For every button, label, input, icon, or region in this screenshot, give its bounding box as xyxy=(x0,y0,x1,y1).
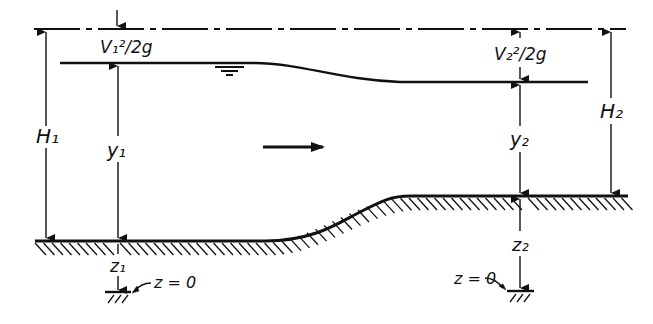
water-surface xyxy=(60,63,588,82)
channel-energy-diagram: H₁ V₁²/2g y₁ z₁ z = 0 V₂²/2g y₂ xyxy=(0,0,653,324)
elevation-2-label: z₂ xyxy=(511,234,529,255)
datum-1-label: z = 0 xyxy=(153,273,196,292)
depth-2-label: y₂ xyxy=(509,128,529,150)
water-level-symbol-icon xyxy=(215,67,244,75)
elevation-1-label: z₁ xyxy=(109,256,126,276)
total-head-1-label: H₁ xyxy=(36,124,59,148)
velocity-head-2-label: V₂²/2g xyxy=(494,44,547,64)
depth-1-label: y₁ xyxy=(106,139,126,161)
datum-2-label: z = 0 xyxy=(453,269,496,288)
velocity-head-1-label: V₁²/2g xyxy=(100,37,153,57)
total-head-2-label: H₂ xyxy=(600,99,623,123)
datum-1-symbol-icon xyxy=(105,283,151,303)
